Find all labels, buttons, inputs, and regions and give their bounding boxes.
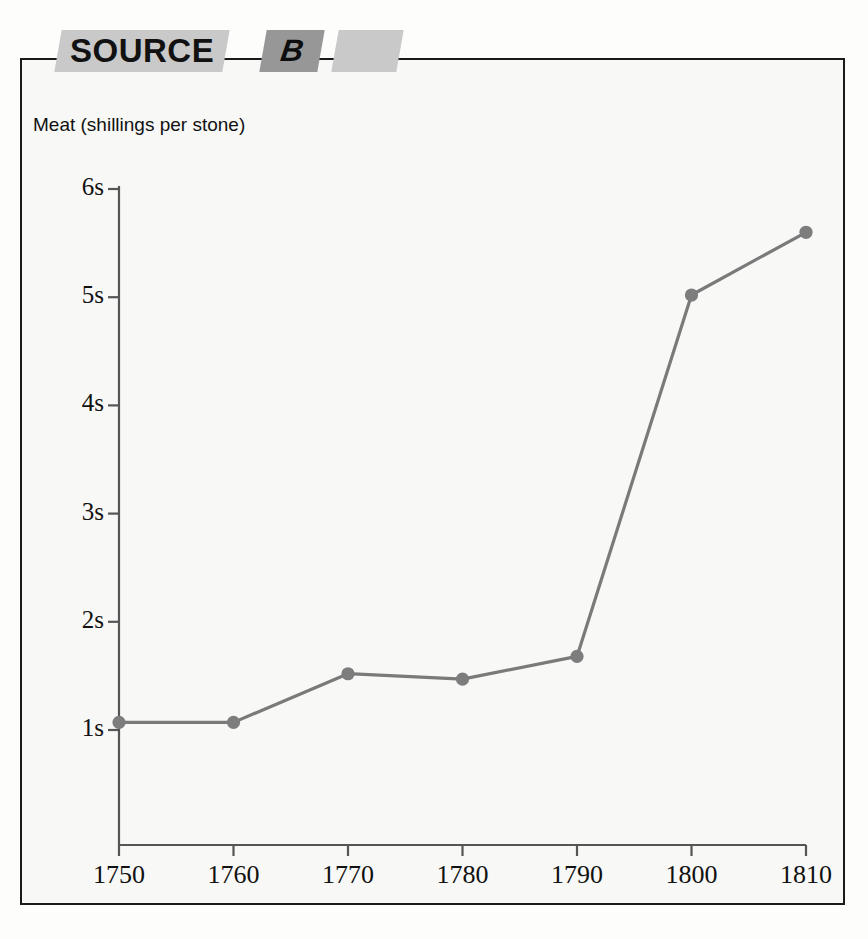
page-canvas: SOURCE B Meat (shillings per stone) 1s2s… [0,0,868,939]
x-axis-tick-label: 1780 [418,860,508,890]
y-axis-tick-label: 4s [44,389,104,417]
x-axis-tick-label: 1800 [647,860,737,890]
chart-frame [20,58,845,905]
chart-title: Meat (shillings per stone) [33,114,245,136]
y-axis-tick-label: 1s [44,714,104,742]
y-axis-tick-label: 6s [44,173,104,201]
source-blank-tag [331,30,403,72]
x-axis-tick-label: 1810 [761,860,851,890]
y-axis-tick-label: 2s [44,606,104,634]
source-banner: SOURCE B [58,30,398,72]
source-tag-label: SOURCE [70,32,214,70]
source-tag: SOURCE [54,30,229,72]
source-letter-label: B [278,33,305,69]
y-axis-tick-label: 5s [44,281,104,309]
x-axis-tick-label: 1750 [74,860,164,890]
x-axis-tick-label: 1770 [303,860,393,890]
y-axis-tick-label: 3s [44,498,104,526]
x-axis-tick-label: 1760 [189,860,279,890]
x-axis-tick-label: 1790 [532,860,622,890]
source-letter-tag: B [259,30,324,72]
